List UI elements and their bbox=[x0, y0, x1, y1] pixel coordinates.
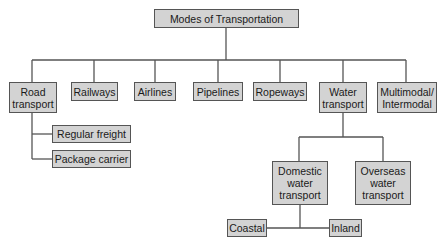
node-railways: Railways bbox=[71, 82, 118, 101]
transportation-diagram: Modes of Transportation Road transport R… bbox=[0, 0, 439, 244]
node-pipelines: Pipelines bbox=[193, 82, 243, 101]
node-water-transport: Water transport bbox=[319, 82, 367, 113]
node-package-carrier: Package carrier bbox=[52, 150, 131, 168]
node-domestic-water-transport: Domestic water transport bbox=[272, 161, 328, 205]
node-overseas-water-transport: Overseas water transport bbox=[355, 161, 411, 205]
node-road-transport: Road transport bbox=[9, 82, 57, 113]
root-node-modes-of-transportation: Modes of Transportation bbox=[154, 9, 299, 28]
node-airlines: Airlines bbox=[134, 82, 176, 101]
node-regular-freight: Regular freight bbox=[52, 125, 131, 143]
node-inland: Inland bbox=[329, 219, 362, 237]
node-coastal: Coastal bbox=[227, 219, 267, 237]
node-ropeways: Ropeways bbox=[253, 82, 307, 101]
node-multimodal-intermodal: Multimodal/ Intermodal bbox=[377, 82, 437, 113]
connector-lines bbox=[0, 0, 439, 244]
